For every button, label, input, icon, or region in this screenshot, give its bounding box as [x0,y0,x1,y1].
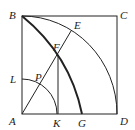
label-k: K [53,118,60,129]
square-abcd [22,16,117,114]
line-ae [22,31,71,114]
label-l: L [10,74,16,85]
geometry-figure [0,0,135,130]
label-c: C [120,10,127,21]
label-f: F [53,42,60,53]
label-d: D [120,116,128,127]
label-e: E [74,20,81,31]
label-b: B [9,10,16,21]
label-p: P [35,72,42,83]
label-g: G [78,118,86,129]
label-a: A [9,116,16,127]
arc-bd [22,16,117,114]
